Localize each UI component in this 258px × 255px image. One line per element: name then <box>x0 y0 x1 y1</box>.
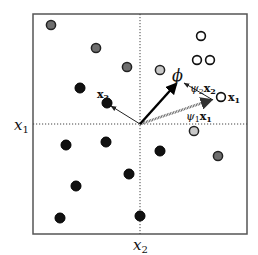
data-point <box>55 213 65 223</box>
data-point <box>189 126 198 135</box>
data-point <box>193 56 202 65</box>
data-point <box>155 65 164 74</box>
data-point <box>213 151 222 160</box>
data-point-x1 <box>217 93 226 102</box>
data-point <box>101 137 111 147</box>
data-point <box>135 211 145 221</box>
phi-label: ϕ <box>172 66 183 85</box>
data-point <box>122 62 131 71</box>
psi1-x1-label: ψ1x1 <box>186 110 212 124</box>
data-point <box>155 146 165 156</box>
data-point <box>61 140 71 150</box>
data-point <box>197 32 206 41</box>
psi2-x2-label: ψ2x2 <box>190 82 216 96</box>
x2-point-label: x2 <box>97 88 109 102</box>
x2-axis-label: x2 <box>133 236 148 255</box>
data-point <box>124 169 134 179</box>
data-point <box>75 83 85 93</box>
feature-space-diagram: x1 x2 ϕ x2 x1 ψ2x2 ψ1x1 <box>0 0 258 255</box>
data-point <box>46 20 55 29</box>
data-point <box>206 56 215 65</box>
phi-vector-arrow <box>140 84 176 124</box>
data-point <box>71 181 81 191</box>
data-point <box>91 43 100 52</box>
x2-vector-arrow <box>111 106 140 124</box>
x1-point-label: x1 <box>228 91 240 105</box>
x1-axis-label: x1 <box>14 116 29 135</box>
